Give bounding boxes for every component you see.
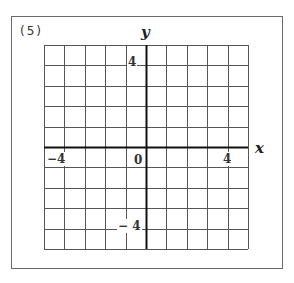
y-tick-positive-4: 4	[127, 55, 137, 69]
y-tick-negative-4: − 4	[117, 219, 142, 233]
y-axis-label: y	[141, 25, 150, 39]
origin-label: 0	[133, 153, 143, 167]
axis-lines	[44, 45, 248, 249]
x-axis-label: x	[255, 141, 264, 155]
coordinate-grid	[0, 0, 294, 283]
x-tick-negative-4: −4	[46, 152, 66, 166]
x-tick-positive-4: 4	[222, 152, 232, 166]
